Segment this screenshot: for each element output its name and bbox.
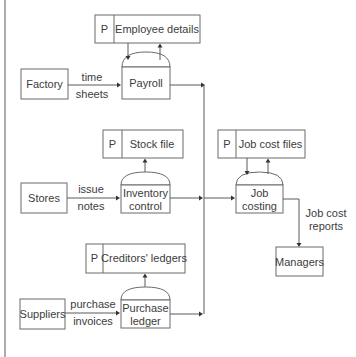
process-label: Job xyxy=(251,187,269,199)
entity-stores: Stores xyxy=(21,183,67,213)
flow-label: time xyxy=(82,71,103,83)
flow-label: purchase xyxy=(70,298,115,310)
store-prefix: P xyxy=(223,138,230,150)
entity-label: Factory xyxy=(26,78,63,90)
process-label: control xyxy=(129,200,162,212)
entity-suppliers: Suppliers xyxy=(20,299,66,329)
data-store-creditors-ledgers: P Creditors' ledgers xyxy=(86,244,187,273)
process-label: ledger xyxy=(130,315,161,327)
flow-label: notes xyxy=(78,200,105,212)
store-label: Job cost files xyxy=(239,138,303,150)
store-prefix: P xyxy=(91,252,98,264)
process-label: Payroll xyxy=(129,77,163,89)
entity-managers: Managers xyxy=(275,247,324,276)
process-label: costing xyxy=(242,200,277,212)
process-purchase-ledger: Purchase ledger xyxy=(121,287,170,328)
arrowhead xyxy=(199,312,203,317)
entity-label: Suppliers xyxy=(20,308,66,320)
store-label: Creditors' ledgers xyxy=(101,252,187,264)
store-prefix: P xyxy=(101,23,108,35)
store-label: Employee details xyxy=(115,23,199,35)
flow-label: sheets xyxy=(76,88,109,100)
arrowhead xyxy=(297,243,302,247)
arrowhead xyxy=(116,311,120,316)
flow-label: issue xyxy=(78,183,104,195)
store-prefix: P xyxy=(109,138,116,150)
process-payroll: Payroll xyxy=(122,52,170,99)
arrowhead xyxy=(266,159,271,163)
process-label: Purchase xyxy=(122,302,168,314)
arrowhead xyxy=(117,83,121,88)
arrowhead xyxy=(116,196,120,201)
entity-factory: Factory xyxy=(21,69,68,99)
data-store-stock-file: P Stock file xyxy=(103,130,183,158)
data-flow-diagram: P Employee details Payroll Factory time … xyxy=(0,0,356,357)
store-label: Stock file xyxy=(130,138,175,150)
data-store-job-cost-files: P Job cost files xyxy=(218,130,305,158)
flow-label: invoices xyxy=(73,315,113,327)
arrowhead xyxy=(231,196,235,201)
process-inventory-control: Inventory control xyxy=(121,172,170,213)
process-label: Inventory xyxy=(123,187,169,199)
entity-label: Stores xyxy=(28,192,60,204)
arrowhead xyxy=(143,159,148,163)
process-job-costing: Job costing xyxy=(236,172,283,213)
data-store-employee-details: P Employee details xyxy=(95,15,200,43)
flow-jobcosting-to-managers xyxy=(283,199,299,243)
arrowhead xyxy=(143,274,148,278)
flow-label: Job cost xyxy=(306,207,347,219)
flow-label: reports xyxy=(309,220,344,232)
entity-label: Managers xyxy=(275,256,324,268)
arrowhead xyxy=(199,196,203,201)
arrowhead xyxy=(158,44,163,48)
